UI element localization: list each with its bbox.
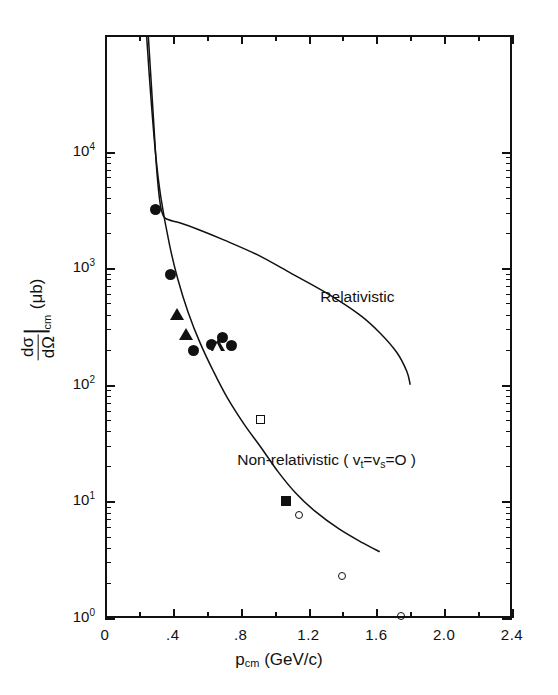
data-point-circle-open xyxy=(338,572,346,580)
data-point-square-filled xyxy=(281,496,291,506)
data-point-square-open xyxy=(256,415,265,424)
y-axis-title: dσdΩcm (μb) xyxy=(19,219,58,419)
x-axis-title-subscript: cm xyxy=(245,657,260,669)
y-axis-title-subscript: cm xyxy=(40,315,52,330)
y-axis-title-numerator: dσ xyxy=(19,334,39,360)
data-point-triangle-filled xyxy=(179,328,193,340)
nonrel-text-pre: Non-relativistic ( v xyxy=(237,451,360,468)
data-point-circle-filled xyxy=(226,340,237,351)
x-axis-title-unit: (GeV/c) xyxy=(264,650,323,669)
y-axis-title-fraction: dσdΩ xyxy=(19,334,58,360)
x-axis-title: pcm (GeV/c) xyxy=(0,650,558,670)
curve-label-relativistic: Relativistic xyxy=(320,288,394,306)
data-point-circle-filled xyxy=(165,269,176,280)
data-point-circle-filled xyxy=(188,345,199,356)
x-axis-title-symbol: p xyxy=(235,650,244,669)
data-point-triangle-filled xyxy=(170,308,184,320)
curve-label-nonrelativistic: Non-relativistic ( vt=vs=O ) xyxy=(237,451,416,470)
vertical-bar-icon xyxy=(24,331,50,332)
data-curves xyxy=(0,0,558,695)
figure-root: 0.4.81.21.62.02.4 104103102101100 Relati… xyxy=(0,0,558,695)
y-axis-title-evaluation-bar: cm xyxy=(24,315,52,332)
data-point-circle-open xyxy=(397,612,405,620)
nonrel-text-post: =O ) xyxy=(385,451,416,468)
nonrel-text-mid: =v xyxy=(363,451,380,468)
y-axis-title-unit: (μb) xyxy=(27,279,46,310)
data-point-triangle-open xyxy=(211,339,225,351)
y-axis-title-denominator: dΩ xyxy=(39,334,58,360)
